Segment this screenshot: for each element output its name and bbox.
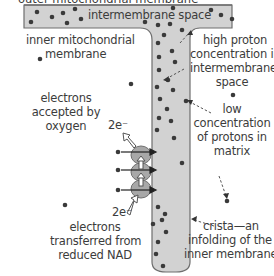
electrons-accepted-label-1: electrons: [28, 92, 104, 105]
electrons-transferred-label-2: transferred from: [50, 235, 140, 248]
crista-label-1: crista—an: [188, 220, 274, 233]
high-proton-label-4: space: [190, 76, 274, 89]
low-conc-label-1: low: [190, 103, 274, 116]
two-electrons-bottom-label: 2e⁻: [112, 206, 132, 219]
high-proton-label-1: high proton: [195, 34, 274, 47]
electrons-transferred-label-3: reduced NAD: [50, 249, 140, 262]
crista-label-3: inner membrane: [184, 248, 274, 261]
high-proton-label-2: concentration in: [190, 48, 274, 61]
electrons-accepted-label-3: oxygen: [28, 120, 104, 133]
intermembrane-space-label: intermembrane space: [88, 9, 211, 22]
low-conc-label-3: of protons in: [190, 131, 274, 144]
electrons-accepted-label-2: accepted by: [28, 106, 104, 119]
mitochondrion-diagram: outer mitochondrial membrane: [0, 0, 274, 276]
inner-membrane-label-2: membrane: [45, 48, 106, 61]
high-proton-label-3: intermembrane: [190, 62, 274, 75]
electrons-transferred-label-1: electrons: [50, 221, 140, 234]
inner-membrane-label-1: inner mitochondrial: [26, 34, 135, 47]
low-conc-label-2: concentration: [190, 117, 274, 130]
low-conc-label-4: matrix: [190, 145, 274, 158]
crista-label-2: infolding of the: [186, 234, 274, 247]
two-electrons-top-label: 2e⁻: [108, 119, 128, 132]
